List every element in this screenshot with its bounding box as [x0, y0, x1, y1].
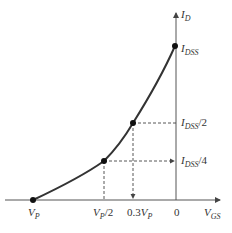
- point-vp: [30, 197, 36, 203]
- y-axis-label: ID: [180, 8, 191, 23]
- label-idss: IDSS: [180, 42, 198, 57]
- label-idss-quarter: IDSS/4: [180, 154, 208, 169]
- point-idss: [172, 43, 178, 49]
- point-03vp: [130, 120, 136, 126]
- transfer-curve-diagram: ID VGS IDSS IDSS/2 IDSS/4 VP VP/2 0.3VP …: [0, 0, 232, 233]
- label-03vp: 0.3VP: [127, 206, 152, 221]
- label-vp: VP: [28, 206, 40, 221]
- label-idss-half: IDSS/2: [180, 116, 207, 131]
- label-zero: 0: [174, 206, 180, 218]
- point-half-vp: [101, 158, 107, 164]
- x-axis-label: VGS: [204, 206, 221, 221]
- label-vp-half: VP/2: [93, 206, 113, 221]
